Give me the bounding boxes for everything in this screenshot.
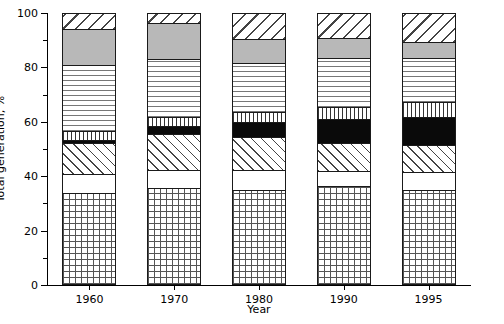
- y-tick-label: 100: [17, 7, 38, 20]
- segment-divider: [317, 143, 371, 144]
- x-tick-label-1995: 1995: [415, 293, 443, 306]
- segment-divider: [147, 170, 201, 171]
- bar-segment-segment-2-blank: [402, 172, 456, 190]
- bar-segment-segment-7-gray: [147, 23, 201, 59]
- x-tick: [174, 285, 175, 290]
- segment-divider: [232, 112, 286, 113]
- bar-segment-segment-1-grid: [402, 190, 456, 285]
- bar-segment-segment-5-vertical: [232, 112, 286, 122]
- segment-divider: [317, 58, 371, 59]
- y-tick-minor: [43, 258, 47, 259]
- segment-divider: [232, 137, 286, 138]
- bar-segment-segment-5-vertical: [147, 117, 201, 126]
- bar-segment-segment-1-grid: [317, 186, 371, 285]
- bar-1980[interactable]: [232, 13, 286, 285]
- bar-segment-segment-2-blank: [317, 171, 371, 186]
- bar-segment-segment-8-diagonal-up: [62, 13, 116, 29]
- y-tick-label: 40: [24, 170, 38, 183]
- x-tick: [259, 285, 260, 290]
- bar-segment-segment-6-horizontal: [402, 58, 456, 102]
- segment-divider: [62, 29, 116, 30]
- bar-segment-segment-4-black: [232, 122, 286, 137]
- segment-divider: [147, 188, 201, 189]
- bar-segment-segment-4-black: [402, 117, 456, 145]
- y-tick-major: [41, 285, 47, 286]
- bar-segment-segment-5-vertical: [62, 131, 116, 140]
- segment-divider: [147, 134, 201, 135]
- bar-segment-segment-6-horizontal: [62, 65, 116, 131]
- y-tick-major: [41, 122, 47, 123]
- bar-segment-segment-8-diagonal-up: [232, 13, 286, 39]
- bar-segment-segment-5-vertical: [402, 102, 456, 117]
- bar-segment-segment-7-gray: [317, 38, 371, 58]
- y-tick-minor: [43, 40, 47, 41]
- bar-segment-segment-3-diagonal: [232, 137, 286, 170]
- y-tick-minor: [43, 95, 47, 96]
- x-tick: [344, 285, 345, 290]
- segment-divider: [232, 190, 286, 191]
- bar-segment-segment-6-horizontal: [232, 63, 286, 112]
- segment-divider: [232, 39, 286, 40]
- x-tick-label-1990: 1990: [330, 293, 358, 306]
- bar-segment-segment-4-black: [317, 119, 371, 143]
- bar-segment-segment-1-grid: [232, 190, 286, 285]
- segment-divider: [232, 122, 286, 123]
- segment-divider: [402, 102, 456, 103]
- segment-divider: [402, 117, 456, 118]
- segment-divider: [317, 171, 371, 172]
- segment-divider: [317, 186, 371, 187]
- bar-1990[interactable]: [317, 13, 371, 285]
- segment-divider: [317, 107, 371, 108]
- y-tick-minor: [43, 203, 47, 204]
- bar-segment-segment-3-diagonal: [147, 134, 201, 170]
- segment-divider: [317, 38, 371, 39]
- bar-segment-segment-6-horizontal: [317, 58, 371, 107]
- bar-segment-segment-8-diagonal-up: [147, 13, 201, 23]
- bar-segment-segment-2-blank: [147, 170, 201, 188]
- bar-segment-segment-7-gray: [402, 42, 456, 58]
- plot-area: 020406080100 19601970198019901995: [47, 13, 471, 285]
- x-tick-label-1970: 1970: [160, 293, 188, 306]
- bar-segment-segment-7-gray: [232, 39, 286, 63]
- stacked-bar-chart: Total generation, % Year 020406080100 19…: [0, 0, 504, 324]
- y-tick-minor: [43, 149, 47, 150]
- segment-divider: [147, 126, 201, 127]
- bar-segment-segment-8-diagonal-up: [402, 13, 456, 42]
- segment-divider: [317, 119, 371, 120]
- segment-divider: [62, 131, 116, 132]
- segment-divider: [62, 193, 116, 194]
- segment-divider: [402, 145, 456, 146]
- segment-divider: [62, 143, 116, 144]
- x-tick: [429, 285, 430, 290]
- x-tick: [89, 285, 90, 290]
- x-tick-label-1960: 1960: [75, 293, 103, 306]
- y-tick-major: [41, 176, 47, 177]
- bar-segment-segment-8-diagonal-up: [317, 13, 371, 38]
- bar-1970[interactable]: [147, 13, 201, 285]
- segment-divider: [62, 174, 116, 175]
- bar-segment-segment-7-gray: [62, 29, 116, 65]
- y-tick-label: 60: [24, 115, 38, 128]
- bar-segment-segment-3-diagonal: [402, 145, 456, 172]
- y-tick-label: 80: [24, 61, 38, 74]
- segment-divider: [147, 117, 201, 118]
- y-tick-label: 20: [24, 224, 38, 237]
- segment-divider: [402, 42, 456, 43]
- bar-1995[interactable]: [402, 13, 456, 285]
- y-tick-major: [41, 13, 47, 14]
- bar-segment-segment-1-grid: [62, 193, 116, 285]
- bar-segment-segment-1-grid: [147, 188, 201, 285]
- y-tick-major: [41, 231, 47, 232]
- x-tick-label-1980: 1980: [245, 293, 273, 306]
- segment-divider: [62, 140, 116, 141]
- bar-segment-segment-3-diagonal: [317, 143, 371, 171]
- y-axis-title: Total generation, %: [0, 96, 7, 202]
- segment-divider: [147, 59, 201, 60]
- bar-segment-segment-6-horizontal: [147, 59, 201, 117]
- bar-segment-segment-3-diagonal: [62, 143, 116, 174]
- segment-divider: [232, 170, 286, 171]
- segment-divider: [402, 190, 456, 191]
- bar-segment-segment-5-vertical: [317, 107, 371, 119]
- bar-1960[interactable]: [62, 13, 116, 285]
- segment-divider: [402, 58, 456, 59]
